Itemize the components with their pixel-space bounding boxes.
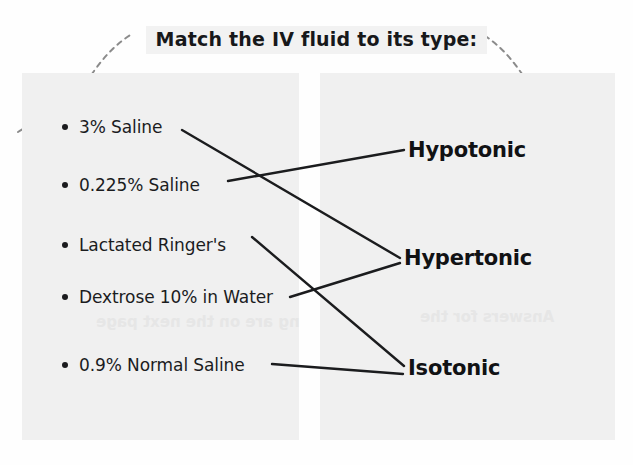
worksheet-page: ng are on the next page Answers for the … xyxy=(0,0,633,465)
type-label-hypotonic[interactable]: Hypotonic xyxy=(408,138,526,162)
type-label-hypertonic[interactable]: Hypertonic xyxy=(404,246,532,270)
type-label-isotonic[interactable]: Isotonic xyxy=(408,356,500,380)
page-title: Match the IV fluid to its type: xyxy=(146,26,488,54)
tonicity-type-list: Hypotonic Hypertonic Isotonic xyxy=(0,0,633,465)
title-bar: Match the IV fluid to its type: xyxy=(0,26,633,54)
